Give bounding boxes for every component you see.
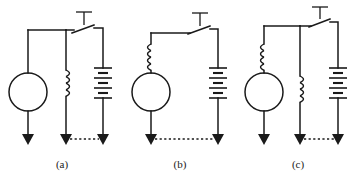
arrow-terminal-b-right (212, 134, 224, 145)
switch-right-wire-a (94, 28, 103, 68)
inductor-coil-c-middle (300, 76, 304, 102)
switch-right-wire-b (210, 29, 218, 68)
inductor-coil-c-left (261, 44, 265, 70)
circle-source-b (132, 73, 170, 111)
push-button-actuator-a[interactable] (76, 12, 92, 25)
circuit-figure: (a) (0, 0, 357, 176)
arrow-terminal-a-left (22, 134, 34, 145)
circuit-diagram-canvas: (a) (0, 0, 357, 176)
circuit-b: (b) (132, 13, 227, 171)
switch-blade-b[interactable] (188, 26, 210, 34)
inductor-coil-b (148, 44, 152, 70)
switch-blade-a[interactable] (72, 25, 94, 33)
circle-source-c (245, 73, 283, 111)
circuit-c: (c) (245, 7, 347, 171)
circle-source-a (9, 73, 47, 111)
push-button-actuator-c[interactable] (312, 7, 328, 19)
arrow-terminal-c-left (258, 134, 270, 145)
circuit-a: (a) (9, 12, 112, 171)
switch-blade-c[interactable] (309, 19, 330, 27)
caption-b: (b) (174, 158, 187, 171)
battery-a (94, 68, 112, 98)
inductor-coil-a (66, 70, 70, 96)
battery-b (209, 68, 227, 98)
caption-c: (c) (292, 158, 305, 171)
battery-c (329, 68, 347, 98)
caption-a: (a) (56, 158, 69, 171)
push-button-actuator-b[interactable] (192, 13, 208, 26)
switch-right-wire-c (330, 22, 338, 68)
